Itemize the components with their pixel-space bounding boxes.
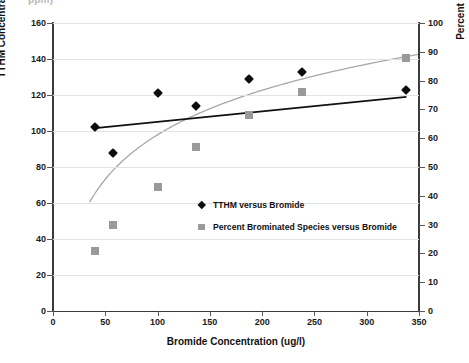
y-axis-title-left: TTHM Concentration (ug/l) — [0, 0, 7, 100]
y-axis-tick-label-right: 100 — [428, 18, 443, 28]
y-axis-tick-left — [47, 23, 53, 24]
y-axis-tick-label-left: 60 — [36, 198, 46, 208]
y-axis-tick-label-right: 70 — [428, 104, 438, 114]
data-point-percent-brominated — [154, 183, 162, 191]
y-axis-tick-label-left: 100 — [31, 126, 46, 136]
y-axis-tick-right — [419, 253, 425, 254]
y-axis-tick-label-left: 20 — [36, 270, 46, 280]
gridline — [53, 167, 419, 168]
legend-item-percent-brominated[interactable]: Percent Brominated Species versus Bromid… — [196, 222, 397, 232]
y-axis-tick-right — [419, 282, 425, 283]
x-axis-tick-label: 300 — [359, 317, 374, 327]
y-axis-tick-label-right: 60 — [428, 133, 438, 143]
clipped-title-fragment: ppm) — [28, 0, 228, 5]
y-axis-tick-right — [419, 167, 425, 168]
data-point-percent-brominated — [298, 88, 306, 96]
y-axis-tick-label-right: 50 — [428, 162, 438, 172]
x-axis-tick — [367, 311, 368, 316]
y-axis-tick-label-right: 40 — [428, 191, 438, 201]
y-axis-tick-right — [419, 52, 425, 53]
gridline — [53, 59, 419, 60]
y-axis-tick-label-left: 120 — [31, 90, 46, 100]
y-axis-tick-right — [419, 225, 425, 226]
gridline — [53, 95, 419, 96]
plot-area: 0204060801001201401600102030405060708090… — [53, 23, 419, 311]
x-axis-tick — [105, 311, 106, 316]
gridline — [53, 23, 419, 24]
y-axis-tick-right — [419, 109, 425, 110]
x-axis-tick-label: 50 — [100, 317, 110, 327]
y-axis-tick-left — [47, 203, 53, 204]
x-axis-tick — [158, 311, 159, 316]
y-axis-tick-right — [419, 23, 425, 24]
y-axis-tick-label-right: 20 — [428, 248, 438, 258]
x-axis-tick-label: 100 — [150, 317, 165, 327]
y-axis-tick-right — [419, 138, 425, 139]
gridline — [53, 131, 419, 132]
data-point-percent-brominated — [109, 221, 117, 229]
y-axis-tick-left — [47, 275, 53, 276]
x-axis-tick — [419, 311, 420, 316]
data-point-percent-brominated — [91, 247, 99, 255]
y-axis-tick-label-right: 10 — [428, 277, 438, 287]
y-axis-tick-label-left: 0 — [41, 306, 46, 316]
x-axis-tick-label: 200 — [255, 317, 270, 327]
x-axis-tick-label: 150 — [202, 317, 217, 327]
legend: TTHM versus Bromide Percent Brominated S… — [196, 196, 401, 243]
y-axis-tick-label-left: 140 — [31, 54, 46, 64]
y-axis-tick-left — [47, 239, 53, 240]
chart-container: ppm) 02040608010012014016001020304050607… — [0, 0, 469, 363]
y-axis-tick-left — [47, 59, 53, 60]
legend-label-percent-brominated: Percent Brominated Species versus Bromid… — [213, 222, 397, 232]
x-axis-title: Bromide Concentration (ug/l) — [53, 336, 419, 347]
gridline — [53, 275, 419, 276]
y-axis-tick-label-right: 0 — [428, 306, 433, 316]
x-axis-tick-label: 250 — [307, 317, 322, 327]
y-axis-tick-label-left: 80 — [36, 162, 46, 172]
data-point-percent-brominated — [192, 143, 200, 151]
y-axis-tick-label-left: 40 — [36, 234, 46, 244]
legend-label-tthm: TTHM versus Bromide — [213, 200, 304, 210]
x-axis-tick-label: 350 — [411, 317, 426, 327]
data-point-percent-brominated — [245, 111, 253, 119]
x-axis-tick — [262, 311, 263, 316]
y-axis-tick-left — [47, 131, 53, 132]
legend-item-tthm[interactable]: TTHM versus Bromide — [196, 200, 304, 210]
percent-brominated-trendline — [90, 54, 418, 202]
y-axis-tick-right — [419, 81, 425, 82]
diamond-marker-icon — [196, 202, 206, 208]
y-axis-tick-left — [47, 95, 53, 96]
x-axis-tick — [314, 311, 315, 316]
y-axis-tick-label-left: 160 — [31, 18, 46, 28]
y-axis-tick-left — [47, 167, 53, 168]
y-axis-tick-label-right: 80 — [428, 76, 438, 86]
x-axis-tick — [210, 311, 211, 316]
square-marker-icon — [196, 224, 206, 231]
y-axis-tick-label-right: 30 — [428, 220, 438, 230]
x-axis-tick — [53, 311, 54, 316]
x-axis-tick-label: 0 — [50, 317, 55, 327]
y-axis-tick-label-right: 90 — [428, 47, 438, 57]
data-point-percent-brominated — [402, 54, 410, 62]
y-axis-tick-right — [419, 196, 425, 197]
y-axis-title-right: Percent Brominated Species — [455, 0, 466, 72]
